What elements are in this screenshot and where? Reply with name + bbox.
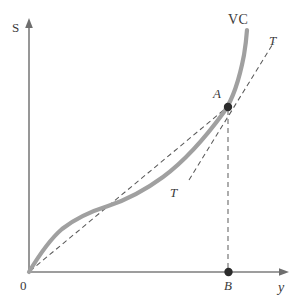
y-axis-label: S bbox=[12, 21, 19, 34]
ray-from-origin-to-a bbox=[30, 104, 231, 271]
point-b-label: B bbox=[224, 279, 232, 292]
vc-curve-path bbox=[29, 30, 247, 272]
tangent-line-at-a bbox=[189, 42, 274, 180]
point-a-label: A bbox=[213, 87, 221, 100]
figure-container: S y 0 VC T T A B bbox=[0, 0, 300, 304]
vc-curve-label: VC bbox=[228, 13, 248, 27]
x-axis-arrow-icon bbox=[279, 268, 289, 275]
point-a-dot bbox=[224, 103, 232, 111]
x-axis-label: y bbox=[278, 281, 284, 295]
tangent-upper-label: T bbox=[269, 34, 276, 47]
y-axis-arrow-icon bbox=[25, 18, 33, 28]
vc-curve-chart bbox=[0, 0, 300, 304]
point-b-dot bbox=[224, 268, 232, 276]
origin-label: 0 bbox=[20, 279, 27, 292]
tangent-lower-label: T bbox=[170, 186, 177, 199]
